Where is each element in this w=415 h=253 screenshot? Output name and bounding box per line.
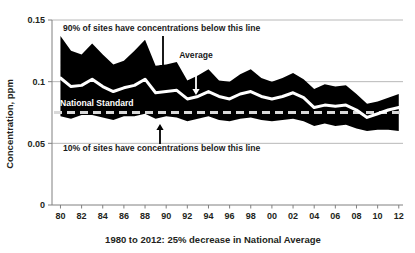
x-tick-label: 88 [140, 211, 150, 221]
x-tick-label: 90 [161, 211, 171, 221]
x-tick-label: 10 [373, 211, 383, 221]
upper-band-annotation-text: 90% of sites have concentrations below t… [63, 23, 260, 33]
y-axis-title: Concentration, ppm [4, 79, 15, 169]
x-tick-label: 00 [267, 211, 277, 221]
x-axis-title: 1980 to 2012: 25% decrease in National A… [105, 234, 321, 245]
y-tick-label: 0.15 [27, 15, 45, 25]
chart-canvas: 00.050.10.15 808284868890929496980002040… [0, 0, 415, 253]
y-tick-label: 0.05 [27, 139, 45, 149]
x-tick-label: 82 [77, 211, 87, 221]
x-tick-label: 02 [288, 211, 298, 221]
x-tick-label: 12 [394, 211, 404, 221]
y-tick-label: 0 [40, 200, 45, 210]
x-tick-label: 98 [246, 211, 256, 221]
national-standard-label: National Standard [60, 98, 134, 108]
x-tick-label: 96 [225, 211, 235, 221]
x-tick-label: 92 [182, 211, 192, 221]
x-axis-tick-labels: 8082848688909294969800020406081012 [55, 211, 403, 221]
average-annotation-text: Average [179, 50, 213, 60]
x-tick-label: 86 [119, 211, 129, 221]
x-tick-label: 80 [55, 211, 65, 221]
x-tick-label: 06 [330, 211, 340, 221]
x-tick-label: 04 [309, 211, 319, 221]
ozone-trend-chart: 00.050.10.15 808284868890929496980002040… [0, 0, 415, 253]
x-tick-label: 94 [203, 211, 213, 221]
lower-band-annotation-text: 10% of sites have concentrations below t… [63, 143, 260, 153]
x-tick-label: 84 [98, 211, 108, 221]
x-tick-label: 08 [351, 211, 361, 221]
y-tick-label: 0.1 [32, 77, 45, 87]
